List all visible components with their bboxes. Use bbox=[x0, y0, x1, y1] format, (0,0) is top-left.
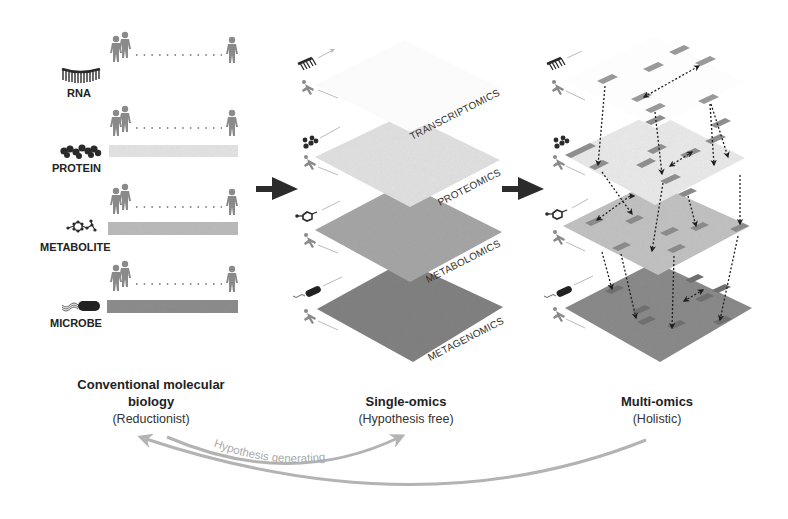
conventional-subtitle: (Reductionist) bbox=[112, 412, 189, 426]
metabolite-icon bbox=[295, 201, 340, 221]
row-microbe: MICROBE bbox=[50, 261, 238, 329]
metabolite-icon bbox=[545, 199, 588, 219]
protein-icon bbox=[554, 136, 570, 149]
transcriptomics-plane bbox=[315, 40, 500, 132]
person-icon bbox=[226, 189, 238, 215]
rna-label: RNA bbox=[67, 87, 91, 99]
microbe-label: MICROBE bbox=[50, 317, 102, 329]
microbe-icon bbox=[293, 277, 342, 298]
protein-measurement-bar bbox=[109, 145, 238, 157]
protein-icon bbox=[60, 144, 101, 159]
person-icon bbox=[226, 37, 238, 63]
conventional-title-line2: biology bbox=[128, 394, 175, 409]
transition-arrow-icon bbox=[502, 177, 544, 200]
row-metabolite: METABOLITE bbox=[40, 184, 238, 253]
conventional-title-line1: Conventional molecular bbox=[77, 377, 224, 392]
person-pair-icon bbox=[110, 106, 131, 136]
person-icon bbox=[226, 110, 238, 136]
person-pair-icon bbox=[110, 32, 131, 62]
omics-diagram: RNA PROTEIN bbox=[0, 0, 788, 519]
microbe-icon bbox=[544, 276, 593, 298]
metabolite-measurement-bar bbox=[108, 222, 238, 235]
single-omics-subtitle: (Hypothesis free) bbox=[358, 412, 453, 426]
rna-icon bbox=[547, 51, 582, 70]
protein-label: PROTEIN bbox=[52, 162, 101, 174]
person-pair-icon bbox=[110, 261, 131, 291]
multi-omics-subtitle: (Holistic) bbox=[633, 412, 682, 426]
multiomics-plane-4 bbox=[565, 262, 752, 362]
row-rna: RNA bbox=[62, 32, 238, 99]
person-pair-icon bbox=[110, 184, 131, 214]
hypothesis-cycle: Hypothesis generating bbox=[143, 437, 646, 485]
rna-icon bbox=[298, 50, 333, 70]
microbe-icon bbox=[62, 301, 100, 311]
multiomics-plane-1 bbox=[565, 36, 745, 128]
microbe-measurement-bar bbox=[107, 300, 238, 313]
transition-arrow-icon bbox=[256, 177, 298, 200]
left-panel-conventional: RNA PROTEIN bbox=[40, 32, 238, 329]
metabolite-icon bbox=[66, 219, 96, 232]
protein-icon bbox=[303, 127, 340, 149]
person-icon bbox=[226, 266, 238, 292]
row-protein: PROTEIN bbox=[52, 106, 238, 174]
multi-omics-title: Multi-omics bbox=[621, 394, 693, 409]
hypothesis-generating-label: Hypothesis generating bbox=[213, 437, 326, 464]
single-omics-title: Single-omics bbox=[366, 394, 447, 409]
middle-panel-single-omics: METAGENOMICS METABOLOMICS PROTEOMICS TRA… bbox=[293, 40, 506, 363]
right-panel-multi-omics bbox=[544, 36, 752, 362]
rna-icon bbox=[62, 69, 100, 83]
captions: Conventional molecular biology (Reductio… bbox=[77, 377, 693, 426]
metabolite-label: METABOLITE bbox=[40, 241, 111, 253]
